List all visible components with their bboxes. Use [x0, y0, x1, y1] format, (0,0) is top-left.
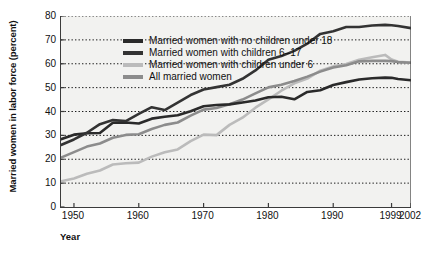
legend-item[interactable]: All married women	[123, 71, 353, 83]
legend-item[interactable]: Married women with no children under 18	[123, 35, 353, 47]
y-tick-label: 20	[32, 154, 56, 164]
y-tick-label: 50	[32, 83, 56, 93]
y-axis-title-text: Married women in labor force (percent)	[8, 20, 19, 192]
x-tick-label: 1970	[191, 210, 213, 221]
x-tick-label: 1950	[62, 210, 84, 221]
y-axis-tick-labels: 01020304050607080	[26, 0, 56, 212]
y-tick-label: 80	[32, 11, 56, 21]
x-tick-label: 1960	[127, 210, 149, 221]
legend-item-label: Married women with children 6–17	[149, 48, 301, 58]
line-chart-figure: Married women in labor force (percent) 0…	[0, 0, 447, 258]
legend-item-label: All married women	[149, 72, 232, 82]
y-axis-title: Married women in labor force (percent)	[0, 0, 26, 212]
x-axis-title: Year	[60, 231, 80, 242]
line-swatch-icon	[123, 51, 143, 54]
legend-item[interactable]: Married women with children under 6	[123, 59, 353, 71]
line-swatch-icon	[123, 75, 143, 78]
y-tick-label: 60	[32, 59, 56, 69]
plot-area: Married women with no children under 18M…	[60, 16, 411, 208]
x-axis-tick-labels: 1950196019701980199019992002	[0, 210, 447, 230]
legend-item[interactable]: Married women with children 6–17	[123, 47, 353, 59]
y-tick-label: 30	[32, 130, 56, 140]
line-swatch-icon	[123, 63, 143, 66]
y-tick-label: 10	[32, 178, 56, 188]
series-line	[61, 78, 411, 140]
line-swatch-icon	[123, 39, 143, 42]
legend-item-label: Married women with children under 6	[149, 60, 313, 70]
x-tick-label: 1990	[321, 210, 343, 221]
x-tick-label: 1980	[256, 210, 278, 221]
chart-legend: Married women with no children under 18M…	[123, 35, 353, 83]
x-tick-label: 2002	[399, 210, 421, 221]
legend-item-label: Married women with no children under 18	[149, 36, 332, 46]
y-tick-label: 70	[32, 35, 56, 45]
y-tick-label: 40	[32, 107, 56, 117]
